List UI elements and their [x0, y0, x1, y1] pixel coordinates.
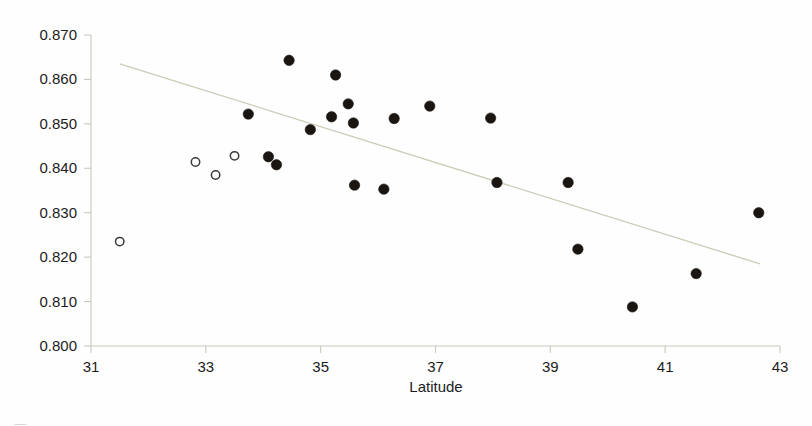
data-point — [389, 113, 399, 123]
data-point — [116, 237, 124, 245]
x-tick-label: 39 — [542, 358, 559, 375]
x-axis-tick-labels: 31333537394143 — [83, 358, 789, 375]
y-axis: 0.8000.8100.8200.8300.8400.8500.8600.870 — [39, 26, 91, 354]
data-point — [330, 70, 340, 80]
data-point — [379, 184, 389, 194]
data-point — [492, 177, 502, 187]
data-point — [305, 124, 315, 134]
data-point — [425, 101, 435, 111]
data-point — [243, 109, 253, 119]
data-point — [230, 152, 238, 160]
x-tick-label: 33 — [197, 358, 214, 375]
data-point — [573, 244, 583, 254]
y-tick-label: 0.820 — [39, 248, 77, 265]
y-tick-label: 0.870 — [39, 26, 77, 43]
y-axis-ticks — [84, 35, 91, 346]
y-tick-label: 0.830 — [39, 204, 77, 221]
data-point — [326, 112, 336, 122]
data-point — [191, 158, 199, 166]
x-tick-label: 41 — [657, 358, 674, 375]
data-point — [284, 55, 294, 65]
y-tick-label: 0.800 — [39, 337, 77, 354]
data-point — [343, 99, 353, 109]
y-tick-label: 0.850 — [39, 115, 77, 132]
x-tick-label: 43 — [772, 358, 789, 375]
data-points-open — [116, 152, 239, 246]
data-point — [349, 180, 359, 190]
x-tick-label: 31 — [83, 358, 100, 375]
data-point — [348, 118, 358, 128]
scatter-plot-figure: 0.8000.8100.8200.8300.8400.8500.8600.870… — [0, 0, 812, 426]
data-point — [271, 160, 281, 170]
data-point — [263, 152, 273, 162]
x-axis-ticks — [91, 346, 780, 353]
data-point — [754, 208, 764, 218]
y-tick-label: 0.810 — [39, 293, 77, 310]
x-axis-title: Latitude — [409, 378, 462, 395]
partial-caption-text: — — [14, 417, 574, 426]
data-point — [563, 177, 573, 187]
trend-line — [120, 64, 760, 264]
x-axis: 31333537394143 — [83, 346, 789, 375]
data-point — [691, 268, 701, 278]
y-tick-label: 0.860 — [39, 70, 77, 87]
scatter-plot-canvas: 0.8000.8100.8200.8300.8400.8500.8600.870… — [0, 0, 812, 426]
y-tick-label: 0.840 — [39, 159, 77, 176]
y-axis-tick-labels: 0.8000.8100.8200.8300.8400.8500.8600.870 — [39, 26, 77, 354]
data-point — [627, 302, 637, 312]
data-point — [485, 113, 495, 123]
x-tick-label: 35 — [312, 358, 329, 375]
data-point — [211, 171, 219, 179]
x-tick-label: 37 — [427, 358, 444, 375]
